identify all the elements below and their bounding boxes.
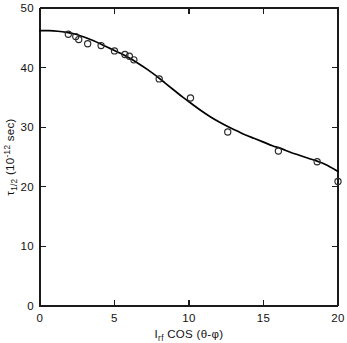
data-point (225, 129, 231, 135)
y-axis-ticks (40, 8, 338, 306)
y-axis-tick-labels: 01020304050 (20, 2, 34, 312)
figure-container: 05101520 01020304050 Irf COS (θ-φ) τ1/2 … (0, 0, 347, 343)
y-tick-label: 20 (20, 181, 34, 193)
x-tick-label: 15 (257, 312, 271, 324)
x-axis-title: Irf COS (θ-φ) (155, 328, 224, 343)
x-tick-label: 10 (182, 312, 196, 324)
y-tick-label: 30 (20, 121, 34, 133)
data-point (275, 148, 281, 154)
axis-frame (40, 8, 338, 306)
y-axis-title: τ1/2 (10-12 sec) (3, 118, 19, 195)
data-point (85, 41, 91, 47)
y-tick-label: 10 (20, 240, 34, 252)
y-tick-label: 50 (20, 2, 34, 14)
x-axis-ticks (40, 8, 338, 306)
y-tick-label: 0 (27, 300, 34, 312)
x-tick-label: 0 (37, 312, 44, 324)
plot-svg: 05101520 01020304050 Irf COS (θ-φ) τ1/2 … (0, 0, 347, 343)
axis-spines (40, 8, 338, 306)
axes-group (40, 8, 338, 306)
x-axis-tick-labels: 05101520 (37, 312, 345, 324)
x-tick-label: 20 (331, 312, 345, 324)
data-points-group (65, 31, 341, 184)
data-point (187, 95, 193, 101)
x-tick-label: 5 (111, 312, 118, 324)
y-tick-label: 40 (20, 62, 34, 74)
